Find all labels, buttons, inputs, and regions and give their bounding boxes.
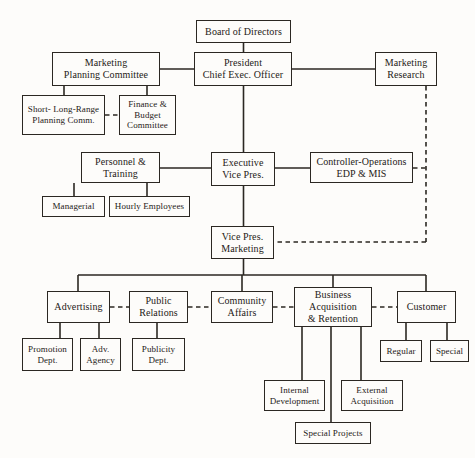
node-controller-operations[interactable]: Controller-Operations EDP & MIS xyxy=(310,152,413,183)
node-executive-vice-pres[interactable]: Executive Vice Pres. xyxy=(211,152,275,186)
node-managerial[interactable]: Managerial xyxy=(42,196,105,217)
node-label: Advertising xyxy=(50,301,107,313)
node-community-affairs[interactable]: Community Affairs xyxy=(211,291,273,323)
node-label: Finance & Budget Committee xyxy=(122,99,173,131)
node-president[interactable]: President Chief Exec. Officer xyxy=(194,52,292,86)
node-special-projects[interactable]: Special Projects xyxy=(295,422,371,444)
node-short-long-range-planning[interactable]: Short- Long-Range Planning Comm. xyxy=(22,95,105,135)
node-label: Community Affairs xyxy=(214,295,270,319)
node-promotion-dept[interactable]: Promotion Dept. xyxy=(22,338,73,371)
node-label: Managerial xyxy=(45,201,102,212)
node-vice-pres-marketing[interactable]: Vice Pres. Marketing xyxy=(211,226,274,259)
node-external-acquisition[interactable]: External Acquisition xyxy=(341,380,403,411)
node-label: Executive Vice Pres. xyxy=(214,157,272,181)
node-marketing-planning-committee[interactable]: Marketing Planning Committee xyxy=(52,52,160,86)
node-label: Marketing Research xyxy=(378,57,434,81)
node-label: External Acquisition xyxy=(344,385,400,406)
node-label: Marketing Planning Committee xyxy=(55,57,157,81)
node-hourly-employees[interactable]: Hourly Employees xyxy=(109,196,190,217)
node-customer[interactable]: Customer xyxy=(397,291,456,323)
node-label: Personnel & Training xyxy=(84,156,157,180)
node-internal-development[interactable]: Internal Development xyxy=(264,380,325,411)
node-adv-agency[interactable]: Adv. Agency xyxy=(80,338,121,371)
node-label: Special xyxy=(433,346,466,357)
node-label: Regular xyxy=(383,346,419,357)
node-special[interactable]: Special xyxy=(430,340,469,362)
node-label: Hourly Employees xyxy=(112,201,187,212)
node-label: Adv. Agency xyxy=(83,344,118,365)
node-label: Short- Long-Range Planning Comm. xyxy=(25,104,102,125)
node-business-acquisition-retention[interactable]: Business Acquisition & Retention xyxy=(294,287,372,327)
node-label: Publicity Dept. xyxy=(135,344,182,365)
node-board-of-directors[interactable]: Board of Directors xyxy=(196,20,291,43)
node-label: Board of Directors xyxy=(199,26,288,38)
node-public-relations[interactable]: Public Relations xyxy=(129,291,188,323)
node-marketing-research[interactable]: Marketing Research xyxy=(375,52,437,86)
node-label: Controller-Operations EDP & MIS xyxy=(313,156,410,180)
node-finance-budget-committee[interactable]: Finance & Budget Committee xyxy=(119,95,176,135)
node-label: Special Projects xyxy=(298,428,368,439)
node-label: Promotion Dept. xyxy=(25,344,70,365)
node-publicity-dept[interactable]: Publicity Dept. xyxy=(132,338,185,371)
node-personnel-training[interactable]: Personnel & Training xyxy=(81,152,160,183)
node-label: Public Relations xyxy=(132,295,185,319)
node-label: Vice Pres. Marketing xyxy=(214,231,271,255)
org-chart: Board of Directors President Chief Exec.… xyxy=(0,0,475,458)
node-regular[interactable]: Regular xyxy=(380,340,422,362)
node-label: Internal Development xyxy=(267,385,322,406)
node-label: President Chief Exec. Officer xyxy=(197,57,289,81)
node-advertising[interactable]: Advertising xyxy=(47,291,110,323)
node-label: Business Acquisition & Retention xyxy=(297,289,369,324)
node-label: Customer xyxy=(400,301,453,313)
